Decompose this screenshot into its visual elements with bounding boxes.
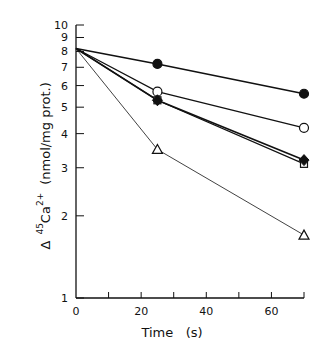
y-tick-label: 4 (61, 128, 68, 141)
y-tick-label: 2 (61, 210, 68, 223)
y-tick-label: 10 (54, 19, 68, 32)
series-group (76, 49, 304, 236)
y-tick-label: 5 (61, 101, 68, 114)
marker-open-circle (300, 123, 309, 132)
y-label-isotope: 45 (35, 223, 45, 234)
marker-filled-circle (153, 59, 162, 68)
y-tick-label: 3 (61, 162, 68, 175)
y-label-element: Ca (38, 206, 53, 223)
y-label-units: (nmol/mg prot.) (38, 82, 53, 185)
y-tick-label: 6 (61, 80, 68, 93)
series-line-open-circle (76, 49, 304, 128)
marker-open-triangle (299, 230, 309, 239)
y-tick-label: 8 (61, 45, 68, 58)
markers-group (152, 59, 309, 239)
y-label-delta: Δ (38, 240, 53, 249)
y-tick-label: 1 (61, 292, 68, 305)
x-tick-label: 20 (134, 305, 148, 318)
axes: 123456789100204060 (54, 19, 304, 318)
y-tick-label: 7 (61, 61, 68, 74)
marker-open-triangle (152, 144, 162, 153)
x-axis-label: Time (s) (140, 325, 202, 340)
y-tick-label: 9 (61, 31, 68, 44)
marker-filled-circle (300, 89, 309, 98)
series-line-filled-diamond (76, 49, 304, 161)
x-tick-label: 60 (264, 305, 278, 318)
x-tick-label: 0 (73, 305, 80, 318)
svg-text:Δ45Ca2+(nmol/mg prot.): Δ45Ca2+(nmol/mg prot.) (35, 62, 53, 279)
y-axis-label: Δ45Ca2+(nmol/mg prot.) (35, 62, 53, 279)
x-tick-label: 40 (199, 305, 213, 318)
y-label-charge: 2+ (35, 193, 45, 206)
series-line-open-triangle (76, 49, 304, 236)
chart: 123456789100204060 Time (s) Δ45Ca2+(nmol… (0, 0, 325, 359)
